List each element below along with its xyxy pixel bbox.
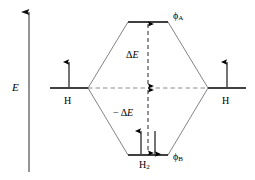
gap-lower-symbol: E: [127, 107, 133, 118]
label-antibonding-phi-a: ϕA: [173, 11, 184, 22]
correlation-line-right-upper: [168, 22, 208, 88]
gap-lower-sign: −: [113, 107, 121, 118]
label-bonding-phi-b: ϕB: [173, 152, 183, 163]
phi-a-subscript: A: [178, 14, 183, 22]
label-gap-upper: ΔE: [126, 50, 139, 60]
mo-diagram-figure: E H H ϕA ϕB H2 ΔE − ΔE: [0, 0, 255, 180]
label-gap-lower: − ΔE: [113, 108, 133, 118]
label-molecule-h2: H2: [139, 160, 150, 171]
phi-b-subscript: B: [178, 155, 183, 163]
h2-subscript: 2: [146, 163, 150, 171]
gap-upper-symbol: E: [132, 49, 138, 60]
label-left-atom: H: [64, 96, 71, 106]
energy-axis-label: E: [12, 82, 19, 93]
mo-diagram-canvas: [0, 0, 255, 180]
correlation-line-left-upper: [88, 22, 128, 88]
correlation-line-left-lower: [88, 88, 128, 155]
label-right-atom: H: [222, 96, 229, 106]
correlation-line-right-lower: [168, 88, 208, 155]
